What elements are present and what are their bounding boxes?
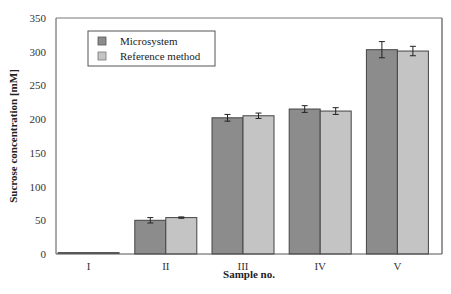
y-tick-label: 300 (30, 46, 47, 58)
bars-group (58, 42, 429, 254)
legend-swatch-microsystem (98, 37, 106, 45)
x-tick-label: I (87, 260, 91, 272)
x-tick-label: V (393, 260, 401, 272)
x-tick-label: II (162, 260, 170, 272)
legend-swatch-reference (98, 52, 106, 60)
x-axis-title: Sample no. (223, 268, 275, 280)
bar-microsystem-V (366, 50, 397, 254)
bar-reference-III (243, 116, 274, 254)
y-tick-label: 50 (35, 214, 47, 226)
legend-label-reference: Reference method (120, 50, 201, 62)
bar-reference-V (397, 51, 428, 254)
bar-reference-II (166, 218, 197, 254)
bar-microsystem-III (212, 118, 243, 254)
y-tick-label: 0 (41, 248, 47, 260)
y-axis-ticks: 050100150200250300350 (30, 12, 47, 260)
bar-microsystem-II (135, 220, 166, 254)
y-tick-label: 350 (30, 12, 47, 24)
bar-reference-IV (320, 111, 351, 254)
y-tick-label: 200 (30, 113, 47, 125)
legend: Microsystem Reference method (88, 31, 215, 66)
y-axis-title: Sucrose concentration [mM] (7, 69, 19, 203)
legend-label-microsystem: Microsystem (120, 35, 178, 47)
y-tick-label: 150 (30, 147, 47, 159)
bar-chart: 050100150200250300350 Sucrose concentrat… (0, 0, 451, 294)
y-tick-label: 250 (30, 79, 47, 91)
y-tick-label: 100 (30, 181, 47, 193)
x-tick-label: IV (314, 260, 326, 272)
bar-microsystem-IV (289, 109, 320, 254)
